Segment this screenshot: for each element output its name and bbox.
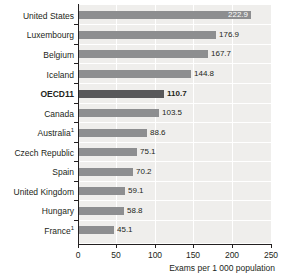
value-label-oecd11: 110.7 [167, 90, 187, 98]
value-label-belgium: 167.7 [211, 50, 231, 58]
value-label-united-kingdom: 59.1 [128, 187, 144, 195]
value-label-iceland: 144.8 [194, 70, 214, 78]
y-tick [74, 220, 78, 221]
value-label-canada: 103.5 [162, 109, 182, 117]
y-tick [74, 161, 78, 162]
x-tick-150 [193, 244, 194, 248]
bar-france [79, 226, 114, 234]
bar-united-kingdom [79, 187, 125, 195]
category-label-canada: Canada [44, 109, 74, 119]
category-text: United States [23, 11, 74, 21]
y-tick [74, 63, 78, 64]
y-tick [74, 103, 78, 104]
x-tick-100 [155, 244, 156, 248]
category-text: Spain [52, 167, 74, 177]
category-label-belgium: Belgium [43, 50, 74, 60]
footnote-marker: 1 [71, 225, 74, 231]
y-tick [74, 200, 78, 201]
category-label-iceland: Iceland [47, 70, 74, 80]
category-label-luxembourg: Luxembourg [27, 30, 74, 40]
row-separator [78, 161, 272, 162]
gridline-250 [271, 5, 272, 243]
bar-united-states [79, 11, 251, 19]
x-tick-label: 50 [111, 250, 120, 260]
gridline-150 [193, 5, 194, 243]
category-text: Belgium [43, 50, 74, 60]
category-label-oecd11: OECD11 [40, 89, 74, 99]
bar-luxembourg [79, 31, 216, 39]
x-axis-title: Exams per 1 000 population [169, 263, 275, 273]
row-separator [78, 24, 272, 25]
bar-spain [79, 168, 133, 176]
category-text: Australia [38, 128, 71, 138]
x-tick-label: 150 [186, 250, 200, 260]
y-tick [74, 142, 78, 143]
y-tick [74, 181, 78, 182]
x-tick-250 [271, 244, 272, 248]
row-separator [78, 122, 272, 123]
row-separator [78, 63, 272, 64]
value-label-luxembourg: 176.9 [219, 31, 239, 39]
bar-hungary [79, 207, 124, 215]
category-text: United Kingdom [14, 187, 74, 197]
row-separator [78, 142, 272, 143]
row-separator [78, 83, 272, 84]
x-tick-label: 0 [76, 250, 81, 260]
category-text: Canada [44, 109, 74, 119]
x-tick-0 [78, 244, 79, 248]
category-label-hungary: Hungary [42, 206, 74, 216]
x-tick-50 [116, 244, 117, 248]
row-separator [78, 200, 272, 201]
x-tick-label: 100 [148, 250, 162, 260]
gridline-200 [232, 5, 233, 243]
category-text: Hungary [42, 206, 74, 216]
x-axis-line [78, 244, 272, 245]
row-separator [78, 181, 272, 182]
value-label-france: 45.1 [117, 226, 133, 234]
value-label-australia: 88.6 [150, 129, 166, 137]
row-separator [78, 220, 272, 221]
bar-canada [79, 109, 159, 117]
value-label-hungary: 58.8 [127, 207, 143, 215]
row-separator [78, 44, 272, 45]
value-label-czech-republic: 75.1 [140, 148, 156, 156]
category-label-france: France1 [44, 226, 74, 236]
category-text: OECD11 [40, 89, 74, 99]
bar-belgium [79, 50, 208, 58]
gridline-100 [155, 5, 156, 243]
category-text: Iceland [47, 70, 74, 80]
bar-iceland [79, 70, 191, 78]
x-tick-label: 250 [264, 250, 278, 260]
value-label-united-states: 222.9 [228, 11, 248, 19]
x-tick-200 [232, 244, 233, 248]
value-label-spain: 70.2 [136, 168, 152, 176]
y-tick [74, 83, 78, 84]
category-text: Czech Republic [14, 148, 74, 158]
row-separator [78, 103, 272, 104]
y-tick [74, 24, 78, 25]
x-tick-label: 200 [225, 250, 239, 260]
y-tick [74, 44, 78, 45]
category-text: Luxembourg [27, 30, 74, 40]
category-text: France [44, 226, 70, 236]
bar-australia [79, 129, 147, 137]
category-label-united-kingdom: United Kingdom [14, 187, 74, 197]
category-label-australia: Australia1 [38, 128, 74, 138]
category-label-czech-republic: Czech Republic [14, 148, 74, 158]
category-label-united-states: United States [23, 11, 74, 21]
category-label-spain: Spain [52, 167, 74, 177]
bar-oecd11 [79, 90, 164, 98]
bar-chart: 0 50 100 150 200 250 Exams per 1 000 pop… [0, 0, 283, 276]
bar-czech-republic [79, 148, 137, 156]
footnote-marker: 1 [71, 127, 74, 133]
y-tick [74, 122, 78, 123]
